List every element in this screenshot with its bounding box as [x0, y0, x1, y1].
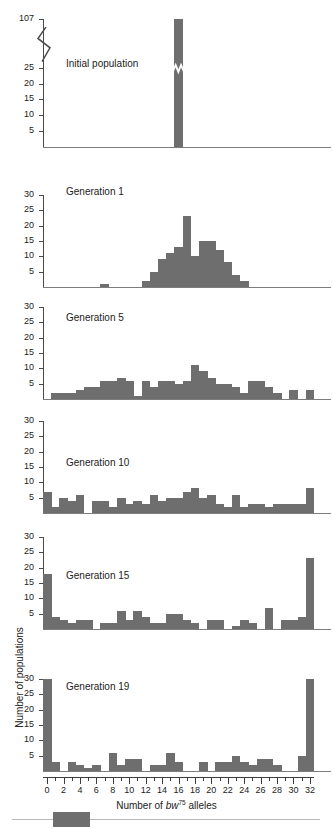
x-axis-tick — [277, 777, 278, 784]
x-axis-tick — [162, 777, 163, 784]
panel-title: Generation 19 — [66, 681, 129, 692]
bar — [248, 623, 257, 629]
x-axis-tick — [129, 777, 130, 784]
y-axis-tick-label: 5 — [0, 751, 34, 760]
y-axis-tick-label: 10 — [0, 363, 34, 372]
x-axis-tick — [105, 777, 106, 781]
x-axis-tick — [302, 777, 303, 781]
panel-title: Generation 1 — [66, 186, 124, 197]
x-axis-tick — [236, 777, 237, 781]
bar — [51, 762, 60, 771]
bar — [133, 759, 142, 771]
y-axis-tick-label: 20 — [0, 79, 34, 88]
x-axis-tick — [310, 777, 311, 784]
bar-series — [43, 679, 314, 771]
bar — [273, 765, 282, 771]
x-axis-tick — [293, 777, 294, 784]
panel-title: Generation 15 — [66, 570, 129, 581]
bar — [76, 495, 85, 513]
y-axis-tick-label: 5 — [0, 493, 34, 502]
x-axis-tick — [47, 777, 48, 784]
y-axis-tick-label: 20 — [0, 447, 34, 456]
x-axis-ruler — [43, 777, 314, 785]
bar — [191, 623, 200, 629]
panel-baseline — [43, 771, 331, 772]
x-axis-tick — [285, 777, 286, 781]
x-axis-tick — [228, 777, 229, 784]
bar — [306, 679, 315, 771]
x-axis-tick — [113, 777, 114, 784]
y-axis-tick-label: 30 — [0, 302, 34, 311]
bar — [289, 390, 298, 399]
panel-baseline — [43, 287, 331, 288]
y-axis-tick-label: 10 — [0, 110, 34, 119]
panel-baseline — [43, 147, 331, 148]
x-axis-tick — [203, 777, 204, 781]
genetic-drift-figure: 510152025107Initial population5101520253… — [0, 0, 333, 829]
y-axis-tick-label: 107 — [0, 14, 34, 23]
y-axis-tick-label: 10 — [0, 593, 34, 602]
x-axis-tick — [121, 777, 122, 781]
bar — [215, 620, 224, 629]
y-axis-tick-label: 15 — [0, 94, 34, 103]
y-axis-tick-label: 30 — [0, 416, 34, 425]
x-axis-tick — [137, 777, 138, 781]
y-axis-tick-label: 5 — [0, 126, 34, 135]
y-axis-tick-label: 25 — [0, 63, 34, 72]
x-axis-tick — [244, 777, 245, 784]
bar — [306, 390, 315, 399]
panel-baseline — [43, 629, 331, 630]
y-axis-tick-label: 20 — [0, 333, 34, 342]
y-axis-tick-label: 5 — [0, 379, 34, 388]
panel-title: Initial population — [66, 58, 138, 69]
x-axis-tick — [220, 777, 221, 781]
panel-title: Generation 10 — [66, 457, 129, 468]
bar — [273, 393, 282, 399]
y-axis-tick-label: 10 — [0, 251, 34, 260]
x-axis-tick — [261, 777, 262, 784]
y-axis-tick-label: 30 — [0, 190, 34, 199]
bar — [306, 488, 315, 513]
y-axis-tick-label: 15 — [0, 462, 34, 471]
panel-baseline — [43, 513, 331, 514]
x-axis-tick — [80, 777, 81, 784]
x-axis-tick — [72, 777, 73, 781]
bar — [265, 608, 274, 629]
x-axis-tick — [252, 777, 253, 781]
panel-baseline — [43, 399, 331, 400]
bar-series — [43, 19, 314, 147]
bar — [306, 558, 315, 629]
bar-series — [43, 537, 314, 629]
panel-title: Generation 5 — [66, 312, 124, 323]
x-axis-tick — [187, 777, 188, 781]
y-axis-tick-label: 15 — [0, 578, 34, 587]
y-axis-tick-label: 25 — [0, 431, 34, 440]
y-axis-tick-label: 25 — [0, 317, 34, 326]
bar — [92, 765, 101, 771]
bar — [43, 679, 52, 771]
x-axis-tick — [154, 777, 155, 781]
x-axis-tick — [64, 777, 65, 784]
y-axis-tick-label: 15 — [0, 236, 34, 245]
x-axis-tick — [211, 777, 212, 784]
y-axis-tick-label: 20 — [0, 563, 34, 572]
y-axis-title: Number of populations — [14, 613, 25, 743]
x-axis-tick — [195, 777, 196, 784]
bar-break-zigzag — [173, 61, 184, 73]
bar — [174, 762, 183, 771]
bar — [100, 284, 109, 287]
bar — [84, 620, 93, 629]
y-axis-tick-label: 30 — [0, 532, 34, 541]
x-axis-tick — [170, 777, 171, 781]
x-axis-tick — [179, 777, 180, 784]
x-axis-tick-label: 32 — [300, 786, 320, 795]
x-axis-title: Number of bw75 alleles — [0, 799, 333, 811]
y-axis-tick-label: 15 — [0, 348, 34, 357]
bar — [240, 281, 249, 287]
x-axis-tick — [269, 777, 270, 781]
scan-artifact-block — [53, 812, 90, 827]
x-axis-tick — [55, 777, 56, 781]
x-axis-tick — [96, 777, 97, 784]
x-axis-tick — [146, 777, 147, 784]
bar — [199, 762, 208, 771]
